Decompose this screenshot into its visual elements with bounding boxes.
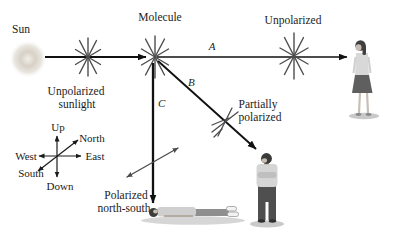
unpolarized-star-icon: [280, 33, 308, 79]
unpolarized-label: Unpolarized: [265, 14, 322, 27]
ray-b-label: B: [188, 76, 195, 88]
compass-label-down: Down: [47, 180, 74, 192]
unpolarized-sunlight-label-line2: sunlight: [58, 98, 96, 111]
polarized-north-south-label-line2: north-south: [97, 202, 150, 214]
compass-label-north: North: [79, 132, 105, 144]
ray-c-label: C: [158, 97, 166, 109]
unpolarized-sunlight-label-line1: Unpolarized: [48, 85, 105, 98]
sun-icon: [9, 40, 47, 78]
diagram-canvas: Sun Unpolarized sunlight Molecule A Unpo…: [0, 0, 393, 242]
polarization-diagram: Sun Unpolarized sunlight Molecule A Unpo…: [0, 0, 393, 242]
compass-label-south: South: [18, 167, 44, 179]
partially-polarized-label-line1: Partially: [239, 98, 278, 111]
sun-label: Sun: [12, 23, 30, 35]
compass-label-up: Up: [51, 121, 65, 133]
compass-label-east: East: [86, 150, 105, 162]
partially-polarized-label-line2: polarized: [239, 111, 282, 124]
ray-a-label: A: [208, 40, 216, 52]
molecule-label: Molecule: [138, 11, 181, 23]
woman-figure: [349, 40, 379, 119]
polarized-north-south-label-line1: Polarized: [104, 189, 148, 201]
compass-rose: Up North West East South Down: [15, 121, 105, 192]
compass-label-west: West: [15, 150, 37, 162]
man-figure: [250, 153, 284, 227]
lying-person-figure: [141, 207, 245, 225]
